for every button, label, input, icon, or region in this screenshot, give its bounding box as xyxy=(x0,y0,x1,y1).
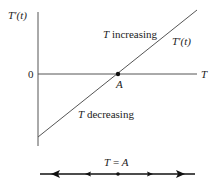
equilibrium-point xyxy=(116,72,120,76)
zero-label: 0 xyxy=(28,68,34,80)
region-decreasing-label: T decreasing xyxy=(78,108,134,120)
y-axis-label: T'(t) xyxy=(8,9,27,22)
phase-diagram: T'(t) 0 T A T'(t) T increasing T decreas… xyxy=(0,0,219,183)
line-label: T'(t) xyxy=(172,35,191,48)
x-axis-label: T xyxy=(201,68,208,80)
phase-line-label: T = A xyxy=(104,156,129,168)
region-increasing-label: T increasing xyxy=(103,28,158,40)
point-a-label: A xyxy=(115,78,123,90)
phase-equilibrium-dot xyxy=(116,172,120,176)
